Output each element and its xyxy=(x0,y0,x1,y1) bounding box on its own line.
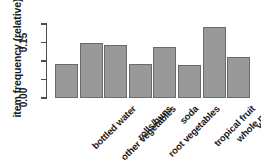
x-axis-label: rolls/buns xyxy=(135,103,174,142)
bar xyxy=(203,27,226,98)
bar xyxy=(227,57,250,98)
y-axis-tick xyxy=(41,60,47,61)
y-axis-tick-label: 0.00 xyxy=(18,83,29,113)
item-frequency-bar-chart: item frequency (relative) 0.150.00 bottl… xyxy=(0,0,261,164)
y-axis-tick xyxy=(41,23,47,24)
bar xyxy=(55,64,78,98)
bar xyxy=(178,65,201,98)
bar xyxy=(104,45,127,98)
bar xyxy=(80,43,103,98)
bar xyxy=(153,47,176,98)
y-axis-tick xyxy=(41,79,47,80)
y-axis-tick xyxy=(41,42,47,43)
y-axis-tick xyxy=(41,97,47,98)
y-axis-tick-label: 0.15 xyxy=(18,27,29,57)
bar xyxy=(129,64,152,98)
